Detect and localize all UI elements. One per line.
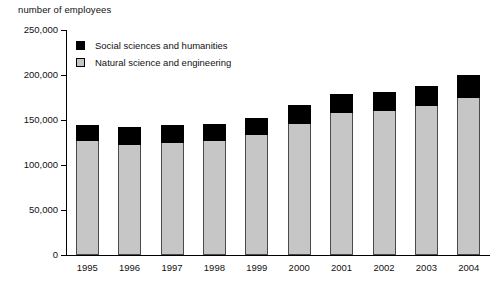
bar-segment-social-sciences[interactable] [76,125,99,140]
bar-segment-social-sciences[interactable] [415,86,438,106]
bar-group[interactable] [330,94,353,255]
x-axis-tick-label: 1998 [191,262,237,273]
bar-group[interactable] [161,125,184,255]
bar-segment-natural-science[interactable] [245,135,268,255]
bar-group[interactable] [373,92,396,255]
bar-segment-natural-science[interactable] [203,141,226,255]
bar-group[interactable] [245,118,268,255]
x-axis-tick-label: 1996 [107,262,153,273]
bar-segment-social-sciences[interactable] [161,125,184,143]
x-axis-tick-label: 2004 [446,262,492,273]
x-axis-tick-label: 1999 [234,262,280,273]
bar-segment-social-sciences[interactable] [245,118,268,135]
x-axis-tick-label: 2000 [276,262,322,273]
x-axis-tick-labels: 1995199619971998199920002001200220032004 [66,262,490,282]
y-axis-tick-label: 250,000 [2,24,58,35]
bar-segment-social-sciences[interactable] [330,94,353,113]
y-axis-tick-labels: 050,000100,000150,000200,000250,000 [0,0,58,292]
x-axis-tick-label: 2001 [319,262,365,273]
bar-segment-natural-science[interactable] [415,106,438,255]
bar-group[interactable] [203,124,226,255]
bars-layer [66,30,490,255]
bar-segment-natural-science[interactable] [457,98,480,255]
bar-group[interactable] [415,86,438,255]
y-axis-tick-label: 100,000 [2,159,58,170]
bar-group[interactable] [76,125,99,255]
bar-group[interactable] [457,75,480,255]
x-axis-tick-label: 1997 [149,262,195,273]
bar-segment-natural-science[interactable] [288,124,311,255]
bar-segment-social-sciences[interactable] [118,127,141,145]
bar-segment-social-sciences[interactable] [373,92,396,111]
bar-segment-natural-science[interactable] [330,113,353,255]
bar-segment-natural-science[interactable] [118,145,141,255]
x-axis-tick-label: 2002 [361,262,407,273]
y-axis-tick-label: 50,000 [2,204,58,215]
bar-segment-social-sciences[interactable] [203,124,226,141]
bar-segment-social-sciences[interactable] [288,105,311,124]
y-axis-tick-label: 200,000 [2,69,58,80]
bar-chart: number of employees 050,000100,000150,00… [0,0,503,292]
y-axis-tick-label: 0 [2,249,58,260]
bar-group[interactable] [118,127,141,255]
y-axis-tick-label: 150,000 [2,114,58,125]
x-axis-tick-label: 1995 [64,262,110,273]
bar-segment-natural-science[interactable] [76,141,99,255]
x-axis-tick-label: 2003 [403,262,449,273]
bar-segment-natural-science[interactable] [373,111,396,255]
bar-segment-social-sciences[interactable] [457,75,480,98]
x-axis-line [66,255,490,256]
bar-group[interactable] [288,105,311,255]
bar-segment-natural-science[interactable] [161,143,184,255]
